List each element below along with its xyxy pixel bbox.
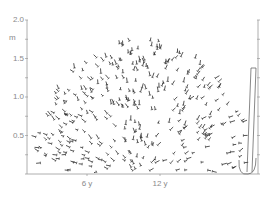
young-plant-outline — [239, 68, 256, 174]
plot-area — [0, 0, 270, 197]
y-tick-label-0-5: 0.5 — [0, 132, 24, 140]
x-tick-label-6y: 6 y — [72, 180, 102, 188]
y-tick-label-1-0: 1.0 — [0, 93, 24, 101]
y-tick-label-1-5: 1.5 — [0, 55, 24, 63]
y-tick-label-2-0: 2.0 — [0, 16, 24, 24]
x-tick-label-12y: 12 y — [145, 180, 175, 188]
growth-diagram: m 2.0 1.5 1.0 0.5 6 y 12 y — [0, 0, 270, 197]
y-unit-label: m — [9, 34, 16, 42]
shrub-foliage — [32, 38, 249, 174]
